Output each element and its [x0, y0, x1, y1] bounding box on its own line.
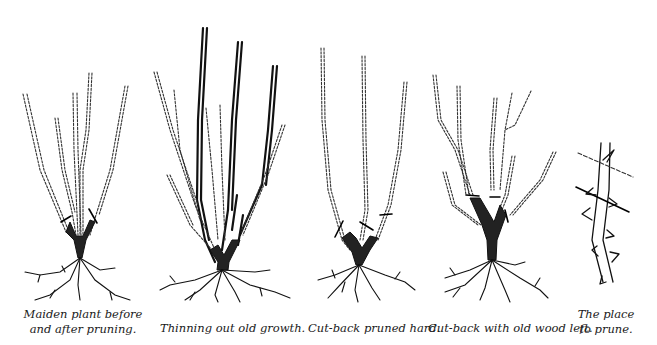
pruning-diagram: Maiden plant before and after pruning. T…: [0, 0, 657, 345]
place-to-prune-drawing: [576, 143, 633, 284]
caption-place-to-prune: The place to prune.: [576, 307, 636, 337]
caption-line: Cut-back with old wood left.: [428, 321, 564, 336]
caption-cutback-hard: Cut-back pruned hard.: [308, 321, 418, 336]
caption-thinning: Thinning out old growth.: [160, 321, 300, 336]
pruning-illustrations: [0, 0, 657, 345]
thinning-drawing: [154, 28, 290, 302]
caption-line: Cut-back pruned hard.: [308, 321, 418, 336]
caption-line: The place: [576, 307, 636, 322]
caption-maiden-plant: Maiden plant before and after pruning.: [18, 307, 148, 337]
caption-line: Thinning out old growth.: [160, 321, 300, 336]
cutback-hard-drawing: [318, 48, 415, 302]
caption-line: Maiden plant before: [18, 307, 148, 322]
caption-line: to prune.: [576, 322, 636, 337]
cutback-oldwood-drawing: [433, 75, 556, 302]
caption-cutback-oldwood: Cut-back with old wood left.: [428, 321, 564, 336]
maiden-plant-drawing: [23, 73, 130, 300]
caption-line: and after pruning.: [18, 322, 148, 337]
